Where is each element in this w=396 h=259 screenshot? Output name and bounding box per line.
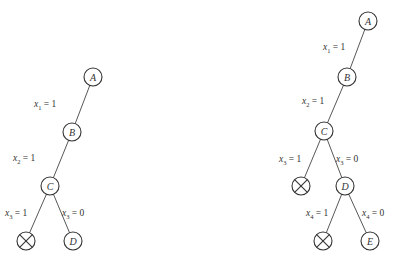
edge-label: x1 = 1 xyxy=(322,42,346,54)
tree-node-b: B xyxy=(63,123,81,141)
edge-label: x3 = 0 xyxy=(335,154,359,166)
edge-label: x1 = 1 xyxy=(33,99,57,111)
node-label: C xyxy=(47,181,54,192)
edge-label: x2 = 1 xyxy=(301,96,325,108)
tree-edge-right-A-B xyxy=(350,29,365,68)
node-label: A xyxy=(89,72,97,83)
edge-label: x2 = 1 xyxy=(12,153,36,165)
tree-edge-left-A-B xyxy=(75,85,90,123)
pruned-node-icon xyxy=(314,232,332,250)
node-label: D xyxy=(340,181,349,192)
edge-label: x4 = 1 xyxy=(305,208,329,220)
tree-edge-left-B-C xyxy=(53,140,68,177)
tree-node-a: A xyxy=(359,12,377,30)
decision-tree-diagram: x1 = 1x2 = 1x3 = 1x3 = 0x1 = 1x2 = 1x3 =… xyxy=(0,0,396,259)
tree-edge-right-D-X2 xyxy=(326,194,341,232)
tree-node-c: C xyxy=(41,177,59,195)
node-label: C xyxy=(321,126,328,137)
tree-edge-right-C-X1 xyxy=(304,139,320,177)
node-label: E xyxy=(366,236,373,247)
node-label: A xyxy=(364,16,372,27)
node-label: B xyxy=(69,127,75,138)
tree-node-d: D xyxy=(64,232,82,250)
node-label: D xyxy=(68,236,77,247)
tree-edge-left-C-X1 xyxy=(30,194,47,233)
edge-label: x3 = 1 xyxy=(4,208,28,220)
pruned-node-icon xyxy=(292,177,310,195)
edge-label: x3 = 0 xyxy=(61,208,85,220)
tree-node-e: E xyxy=(361,232,379,250)
node-label: B xyxy=(344,72,350,83)
tree-node-b: B xyxy=(338,68,356,86)
tree-node-c: C xyxy=(315,122,333,140)
pruned-node-icon xyxy=(17,232,35,250)
tree-edge-right-B-C xyxy=(328,85,344,122)
edge-label: x3 = 1 xyxy=(278,154,302,166)
edge-label: x4 = 0 xyxy=(361,208,385,220)
tree-node-a: A xyxy=(84,68,102,86)
tree-node-d: D xyxy=(336,177,354,195)
